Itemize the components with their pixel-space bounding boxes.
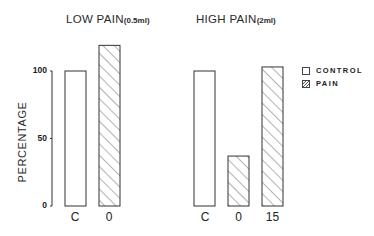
y-tick-label-0: 0 [23,200,47,210]
open-square-icon [302,67,310,75]
legend-label: CONTROL [316,66,363,75]
hatched-square-icon [302,80,310,88]
bar-high-pain-15 [262,67,283,206]
panel-title-text: LOW PAIN [66,13,124,25]
panel-title-text: HIGH PAIN [196,13,257,25]
legend-item-control: CONTROL [302,64,363,77]
panel-title-dose: (0.5ml) [124,16,150,25]
bar-high-pain-C [194,71,215,206]
x-label-high-pain-0: 0 [235,210,242,224]
panel-title-low-pain: LOW PAIN(0.5ml) [66,13,150,25]
y-tick-label-50: 50 [23,133,47,143]
x-label-high-pain-15: 15 [266,210,279,224]
panel-title-high-pain: HIGH PAIN(2ml) [196,13,276,25]
x-label-low-control: C [71,210,80,224]
bar-low-pain-0 [99,45,120,206]
y-tick-label-100: 100 [23,65,47,75]
chart-canvas [0,0,374,236]
legend-item-pain: PAIN [302,77,363,90]
x-label-high-control: C [201,210,210,224]
bars-group [65,45,283,206]
legend-label: PAIN [316,79,339,88]
bar-low-pain-C [65,71,86,206]
x-label-low-pain: 0 [106,210,113,224]
legend: CONTROL PAIN [302,64,363,90]
bar-high-pain-0 [228,156,249,206]
panel-title-dose: (2ml) [257,16,276,25]
